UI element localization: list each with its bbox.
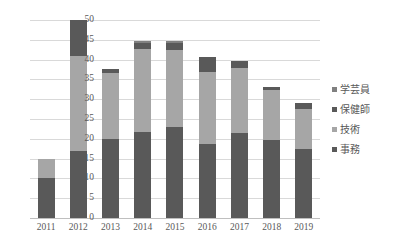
bar-stack[interactable] <box>199 57 216 218</box>
y-axis-tick-label: 10 <box>70 173 94 183</box>
bar-segment[interactable] <box>134 49 151 133</box>
bar-column[interactable] <box>191 20 223 218</box>
y-axis-tick-label: 35 <box>70 74 94 84</box>
bar-stack[interactable] <box>134 41 151 218</box>
bar-segment[interactable] <box>263 140 280 218</box>
y-axis-tick-label: 45 <box>70 35 94 45</box>
bar-segment[interactable] <box>231 133 248 218</box>
legend-swatch-icon <box>332 107 337 112</box>
bar-segment[interactable] <box>166 43 183 51</box>
bar-column[interactable] <box>288 20 320 218</box>
y-axis-tick-label: 30 <box>70 94 94 104</box>
x-axis-tick-label: 2016 <box>191 221 223 237</box>
bar-column[interactable] <box>94 20 126 218</box>
x-axis-tick-label: 2011 <box>30 221 62 237</box>
bar-segment[interactable] <box>102 139 119 218</box>
legend-swatch-icon <box>332 127 337 132</box>
legend-label: 事務 <box>340 144 360 155</box>
x-axis-tick-label: 2019 <box>288 221 320 237</box>
x-axis-tick-label: 2018 <box>256 221 288 237</box>
bar-column[interactable] <box>159 20 191 218</box>
x-axis: 201120122013201420152016201720182019 <box>30 221 320 237</box>
y-axis-tick-label: 15 <box>70 154 94 164</box>
bar-stack[interactable] <box>263 87 280 218</box>
bar-stack[interactable] <box>166 41 183 218</box>
y-axis-tick-label: 25 <box>70 114 94 124</box>
bar-segment[interactable] <box>38 159 55 179</box>
legend-item[interactable]: 学芸員 <box>332 84 396 95</box>
bar-column[interactable] <box>30 20 62 218</box>
y-axis-tick-label: 20 <box>70 134 94 144</box>
bar-segment[interactable] <box>166 50 183 127</box>
bar-segment[interactable] <box>134 132 151 218</box>
legend-swatch-icon <box>332 87 337 92</box>
bar-column[interactable] <box>223 20 255 218</box>
bar-stack[interactable] <box>102 69 119 218</box>
legend: 学芸員保健師技術事務 <box>332 84 396 155</box>
x-axis-tick-label: 2014 <box>127 221 159 237</box>
top-caption-right <box>302 0 397 6</box>
x-axis-tick-label: 2013 <box>94 221 126 237</box>
bar-segment[interactable] <box>263 90 280 140</box>
bar-column[interactable] <box>127 20 159 218</box>
bar-segment[interactable] <box>199 144 216 218</box>
bar-segment[interactable] <box>231 68 248 133</box>
bar-segment[interactable] <box>295 149 312 218</box>
legend-item[interactable]: 事務 <box>332 144 396 155</box>
y-axis-tick-label: 40 <box>70 55 94 65</box>
legend-swatch-icon <box>332 147 337 152</box>
stacked-bar-chart: 05101520253035404550 2011201220132014201… <box>0 0 397 249</box>
bar-segment[interactable] <box>199 72 216 144</box>
bar-segment[interactable] <box>102 73 119 139</box>
legend-item[interactable]: 技術 <box>332 124 396 135</box>
bar-segment[interactable] <box>166 127 183 218</box>
bar-stack[interactable] <box>38 159 55 218</box>
bar-segment[interactable] <box>38 178 55 218</box>
bar-column[interactable] <box>256 20 288 218</box>
x-axis-tick-label: 2012 <box>62 221 94 237</box>
y-axis-tick-label: 50 <box>70 15 94 25</box>
legend-item[interactable]: 保健師 <box>332 104 396 115</box>
bar-segment[interactable] <box>231 61 248 68</box>
bar-segment[interactable] <box>199 57 216 72</box>
x-axis-tick-label: 2015 <box>159 221 191 237</box>
legend-label: 技術 <box>340 124 360 135</box>
legend-label: 学芸員 <box>340 84 370 95</box>
y-axis-tick-label: 5 <box>70 193 94 203</box>
bar-segment[interactable] <box>295 109 312 149</box>
legend-label: 保健師 <box>340 104 370 115</box>
x-axis-tick-label: 2017 <box>223 221 255 237</box>
bar-stack[interactable] <box>295 103 312 218</box>
bar-stack[interactable] <box>231 61 248 218</box>
